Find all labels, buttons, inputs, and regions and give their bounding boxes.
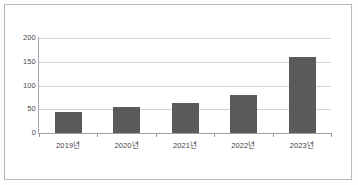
y-tick-label: 50 — [2, 105, 36, 113]
x-tick-mark — [97, 133, 98, 137]
bar-2022 — [230, 95, 257, 133]
x-tick-mark — [39, 133, 40, 137]
y-axis-tick-labels: 200 150 100 50 0 — [0, 0, 36, 185]
x-tick-label-2023: 2023년 — [273, 141, 331, 150]
bar-2020 — [113, 107, 140, 133]
x-tick-label-2019: 2019년 — [39, 141, 97, 150]
x-tick-mark — [214, 133, 215, 137]
x-axis-line — [38, 133, 332, 134]
x-tick-label-2021: 2021년 — [156, 141, 214, 150]
y-tick-label: 200 — [2, 34, 36, 42]
x-tick-mark — [156, 133, 157, 137]
x-tick-mark — [331, 133, 332, 137]
bars-layer — [39, 38, 331, 133]
x-tick-mark — [273, 133, 274, 137]
y-tick-label: 150 — [2, 58, 36, 66]
x-tick-label-2022: 2022년 — [214, 141, 272, 150]
bar-2023 — [289, 57, 316, 133]
bar-chart-figure: 200 150 100 50 0 2019년 2020년 2021년 2022년… — [0, 0, 358, 185]
y-tick-label: 100 — [2, 82, 36, 90]
bar-2019 — [55, 112, 82, 133]
y-tick-label: 0 — [2, 129, 36, 137]
x-tick-label-2020: 2020년 — [97, 141, 155, 150]
bar-2021 — [172, 103, 199, 133]
